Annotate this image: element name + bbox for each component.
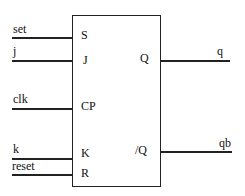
set-signal-label: set xyxy=(13,23,26,35)
reset-signal-label: reset xyxy=(12,160,35,172)
k-pin-label: K xyxy=(81,147,90,159)
qb-signal-label: qb xyxy=(219,137,231,149)
qb-wire xyxy=(160,151,232,153)
r-pin-label: R xyxy=(81,167,89,179)
j-pin-label: J xyxy=(83,54,88,66)
j-wire xyxy=(12,60,73,62)
q-wire xyxy=(160,60,230,62)
k-signal-label: k xyxy=(13,143,19,155)
set-wire xyxy=(12,37,73,39)
j-signal-label: j xyxy=(13,45,16,57)
clk-signal-label: clk xyxy=(13,93,28,105)
cp-pin-label: CP xyxy=(81,100,96,112)
q-signal-label: q xyxy=(217,45,223,57)
qbar-pin-label: /Q xyxy=(135,144,147,156)
reset-wire xyxy=(12,174,73,176)
q-pin-label: Q xyxy=(140,52,149,64)
s-pin-label: S xyxy=(81,29,88,41)
clk-wire xyxy=(12,108,73,110)
